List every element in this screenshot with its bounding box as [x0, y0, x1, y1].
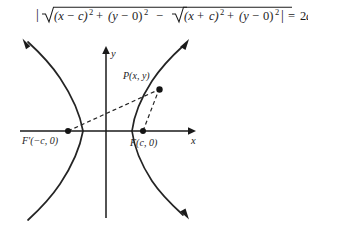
svg-text:2: 2 — [144, 7, 148, 17]
left-branch-upper — [28, 42, 83, 131]
right-focus-dot — [140, 128, 146, 134]
svg-text:2: 2 — [89, 7, 93, 17]
x-axis-arrowhead — [188, 127, 196, 135]
segment-left-focus-to-p — [68, 90, 159, 132]
point-p-dot — [156, 86, 162, 92]
figure-labels: F'(−c, 0) F(c, 0) P(x, y) y x — [21, 48, 196, 149]
left-focus-label: F'(−c, 0) — [21, 135, 59, 147]
svg-text:0): 0) — [263, 9, 273, 23]
svg-text:+: + — [227, 9, 234, 23]
svg-text:−: − — [252, 9, 259, 23]
svg-text:−: − — [67, 9, 74, 23]
equation-text: | (x − c) 2 + (y − 0) 2 − (x + c) 2 — [36, 4, 308, 32]
graph-svg: F'(−c, 0) F(c, 0) P(x, y) y x — [0, 34, 344, 228]
svg-text:=: = — [288, 9, 295, 23]
svg-text:|: | — [36, 7, 39, 22]
axes-group — [20, 46, 196, 218]
svg-text:c): c) — [209, 9, 219, 23]
x-axis-label: x — [190, 135, 196, 146]
svg-text:c): c) — [78, 9, 88, 23]
graph-canvas: F'(−c, 0) F(c, 0) P(x, y) y x — [0, 34, 344, 228]
equation-svg: | (x − c) 2 + (y − 0) 2 − (x + c) 2 — [36, 4, 308, 26]
svg-text:(y: (y — [108, 9, 118, 23]
svg-text:(y: (y — [239, 9, 249, 23]
svg-text:−: − — [156, 9, 163, 23]
svg-text:a: a — [306, 9, 308, 23]
hyperbola-figure: | (x − c) 2 + (y − 0) 2 − (x + c) 2 — [0, 0, 344, 228]
focal-radii — [68, 90, 159, 132]
svg-text:+: + — [96, 9, 103, 23]
y-axis-label: y — [110, 48, 116, 59]
svg-text:0): 0) — [132, 9, 142, 23]
svg-text:2: 2 — [275, 7, 279, 17]
svg-text:2: 2 — [220, 7, 224, 17]
point-p-label: P(x, y) — [122, 70, 150, 82]
svg-text:−: − — [121, 9, 128, 23]
y-axis-arrowhead — [102, 46, 110, 54]
svg-text:|: | — [281, 8, 284, 23]
svg-text:(x: (x — [184, 9, 194, 23]
equation-caption: | (x − c) 2 + (y − 0) 2 − (x + c) 2 — [0, 4, 344, 32]
svg-text:(x: (x — [54, 9, 64, 23]
left-focus-dot — [65, 128, 71, 134]
right-focus-label: F(c, 0) — [129, 137, 158, 149]
svg-text:+: + — [197, 9, 204, 23]
